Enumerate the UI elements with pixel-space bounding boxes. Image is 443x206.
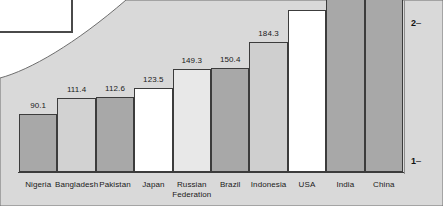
bar[interactable] (365, 0, 403, 172)
bar-chart: 2– 1– 90.1Nigeria111.4Bangladesh112.6Pak… (0, 0, 443, 206)
bar-value-label: 150.4 (205, 55, 255, 64)
bar[interactable] (211, 68, 249, 172)
bar[interactable] (173, 69, 211, 172)
bar-value-label: 184.3 (243, 29, 293, 38)
bar-value-label: 112.6 (90, 84, 140, 93)
bar[interactable] (57, 98, 95, 172)
bar[interactable] (249, 42, 287, 172)
bar[interactable] (19, 114, 57, 172)
bar-value-label: 123.5 (128, 75, 178, 84)
bar[interactable] (96, 97, 134, 172)
bar[interactable] (134, 88, 172, 172)
bar[interactable] (288, 10, 326, 172)
bars-layer: 90.1Nigeria111.4Bangladesh112.6Pakistan1… (0, 0, 443, 206)
bar-value-label: 90.1 (13, 101, 63, 110)
category-label: China (358, 180, 410, 190)
bar[interactable] (326, 0, 364, 172)
